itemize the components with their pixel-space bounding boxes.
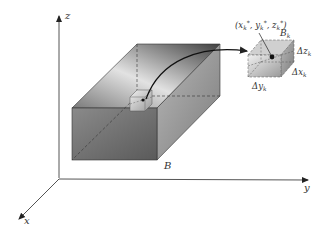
region-label-b: B — [163, 160, 171, 171]
delta-y-label: Δyk — [251, 81, 267, 92]
sample-point — [270, 55, 275, 60]
box-front-face — [72, 108, 157, 160]
delta-z-label: Δzk — [296, 46, 312, 57]
subbox-bk: (xk*, yk*, zk*) Bk Δzk Δxk Δyk — [235, 19, 312, 92]
y-axis — [59, 179, 308, 180]
triple-integral-diagram: z y x B — [0, 0, 326, 236]
z-axis-label: z — [64, 10, 71, 21]
x-axis — [19, 179, 59, 219]
y-axis-label: y — [303, 182, 310, 193]
subbox-label: Bk — [279, 28, 291, 39]
point-label: (xk*, yk*, zk*) — [235, 19, 286, 31]
x-axis-label: x — [24, 215, 30, 226]
delta-x-label: Δxk — [291, 67, 307, 78]
inner-sample-point — [141, 98, 144, 101]
